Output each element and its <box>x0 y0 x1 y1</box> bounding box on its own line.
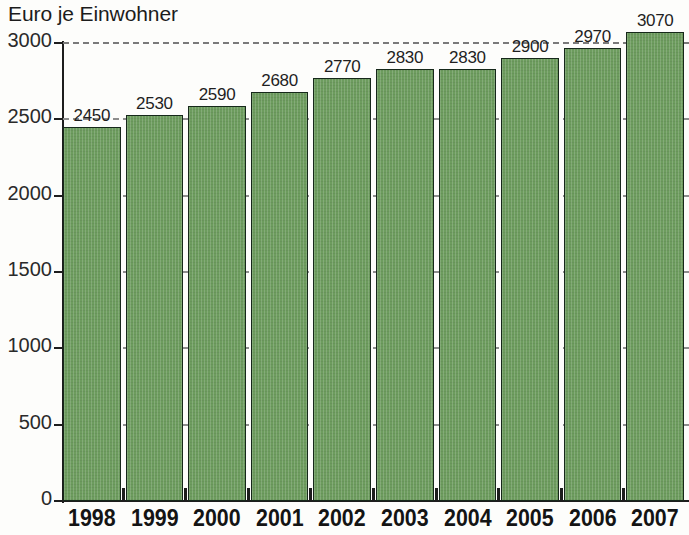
y-axis-tick-label: 500 <box>2 411 52 434</box>
x-axis-tick-label: 2001 <box>249 505 310 532</box>
x-axis-tick-label: 2007 <box>625 505 686 532</box>
bar <box>251 92 309 501</box>
bar-value-label: 2450 <box>57 106 127 126</box>
y-axis-tick-label: 1500 <box>2 258 52 281</box>
x-axis-tick-label: 2003 <box>374 505 435 532</box>
x-axis-tick-label: 1998 <box>61 505 122 532</box>
x-axis-tick-label: 2005 <box>499 505 560 532</box>
y-axis-tick <box>54 42 63 44</box>
x-axis-tick <box>435 488 438 501</box>
x-axis-tick-label: 2002 <box>312 505 373 532</box>
x-axis-tick <box>184 488 187 501</box>
x-axis-tick-label: 2006 <box>562 505 623 532</box>
bar <box>126 115 184 501</box>
y-axis-labels: 050010001500200025003000 <box>0 0 52 535</box>
y-axis-tick-label: 2000 <box>2 182 52 205</box>
bar-value-label: 3070 <box>620 11 689 31</box>
bar <box>63 127 121 501</box>
bar <box>439 69 497 501</box>
x-axis-tick <box>497 488 500 501</box>
bar-value-label: 2900 <box>495 37 565 57</box>
x-axis-labels: 1998199920002001200220032004200520062007 <box>63 505 689 535</box>
x-axis-tick <box>122 488 125 501</box>
bar-value-label: 2590 <box>182 85 252 105</box>
bar <box>501 58 559 501</box>
y-axis-tick-label: 2500 <box>2 105 52 128</box>
x-axis-tick <box>247 488 250 501</box>
bar <box>564 48 622 501</box>
bar <box>188 106 246 501</box>
x-axis-tick-label: 2000 <box>186 505 247 532</box>
bar <box>313 78 371 501</box>
bar-value-label: 2830 <box>370 48 440 68</box>
y-axis-tick <box>54 195 63 197</box>
y-axis-tick <box>54 347 63 349</box>
x-axis-tick <box>309 488 312 501</box>
y-axis-tick-label: 1000 <box>2 334 52 357</box>
x-axis-tick <box>560 488 563 501</box>
bar <box>626 32 684 501</box>
bar-value-label: 2680 <box>245 71 315 91</box>
x-axis-tick <box>622 488 625 501</box>
y-axis-tick <box>54 271 63 273</box>
x-axis-tick-label: 1999 <box>124 505 185 532</box>
y-axis-tick <box>54 424 63 426</box>
bar <box>376 69 434 501</box>
y-axis-tick <box>54 500 63 502</box>
bar-value-label: 2770 <box>307 57 377 77</box>
bar-chart: Euro je Einwohner 0500100015002000250030… <box>0 0 689 535</box>
x-axis-tick-label: 2004 <box>437 505 498 532</box>
bar-value-label: 2830 <box>433 48 503 68</box>
x-axis-tick <box>372 488 375 501</box>
y-axis-tick-label: 3000 <box>2 29 52 52</box>
bar-value-label: 2970 <box>558 27 628 47</box>
bar-value-label: 2530 <box>120 94 190 114</box>
y-axis-tick-label: 0 <box>2 487 52 510</box>
